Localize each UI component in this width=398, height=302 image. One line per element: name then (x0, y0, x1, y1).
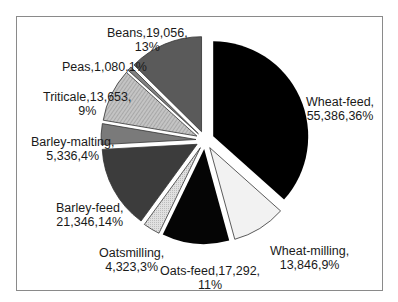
label-oats-feed: Oats-feed,17,292, 11% (160, 264, 260, 292)
label-beans: Beans,19,056, 13% (107, 26, 188, 54)
label-peas: Peas,1,080,1% (62, 60, 147, 74)
label-barley-malting: Barley-malting, 5,336,4% (31, 135, 114, 163)
label-barley-feed: Barley-feed, 21,346,14% (56, 201, 123, 229)
label-wheat-milling: Wheat-milling, 13,846,9% (270, 244, 349, 272)
label-wheat-feed: Wheat-feed, 55,386,36% (306, 95, 374, 123)
label-oatsmilling: Oatsmilling, 4,323,3% (99, 246, 164, 274)
label-triticale: Triticale,13,653, 9% (43, 90, 131, 118)
